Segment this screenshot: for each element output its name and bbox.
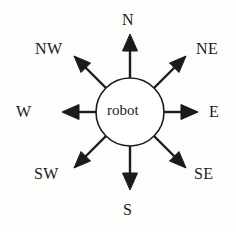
robot-label: robot: [107, 103, 139, 118]
arrow-southwest: [74, 136, 106, 168]
arrow-east: [164, 105, 198, 120]
direction-label-south: S: [123, 202, 132, 218]
arrow-west: [62, 105, 96, 120]
direction-label-west: W: [16, 104, 32, 120]
arrow-south: [123, 146, 138, 190]
arrow-north: [123, 34, 138, 78]
direction-label-north: N: [122, 12, 134, 28]
direction-label-northeast: NE: [196, 41, 218, 57]
arrow-northeast: [154, 56, 186, 88]
arrow-southeast: [154, 136, 186, 168]
direction-label-southwest: SW: [34, 166, 59, 182]
compass-diagram: robot N NE E SE S SW W NW: [0, 0, 236, 232]
arrow-northwest: [74, 56, 106, 88]
direction-label-northwest: NW: [35, 41, 62, 57]
direction-label-southeast: SE: [194, 166, 213, 182]
direction-label-east: E: [209, 104, 219, 120]
